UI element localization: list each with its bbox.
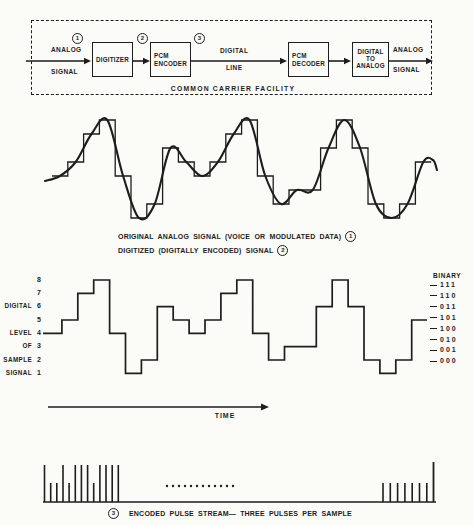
level-number: 6 — [36, 302, 42, 309]
input-label-analog: ANALOG — [51, 46, 82, 53]
binary-value: 110 — [440, 292, 457, 300]
binary-tick-dash — [430, 350, 437, 351]
level-row: 7 — [0, 289, 42, 296]
level-number: 8 — [36, 276, 42, 283]
digital-staircase — [43, 280, 427, 373]
level-number: 4 — [36, 329, 42, 336]
time-axis-arrow — [48, 403, 269, 410]
digital-line-label-bottom: LINE — [226, 64, 242, 71]
level-number: 7 — [36, 289, 42, 296]
level-row: LEVEL4 — [0, 329, 42, 336]
marker-3-icon: 3 — [194, 33, 205, 44]
analog-waveform — [45, 118, 437, 219]
marker-2-icon: 2 — [137, 33, 148, 44]
time-axis-label: TIME — [205, 412, 245, 419]
da-label-line3: ANALOG — [356, 63, 385, 70]
level-word: LEVEL — [10, 329, 32, 336]
binary-row: 011 — [430, 303, 457, 311]
level-number: 2 — [36, 356, 42, 363]
level-row: 5 — [0, 316, 42, 323]
marker-2-icon: 2 — [277, 245, 288, 256]
binary-value: 000 — [440, 357, 458, 365]
binary-row: 001 — [430, 346, 458, 354]
binary-value: 100 — [440, 325, 458, 333]
digitized-caption: DIGITIZED (DIGITALLY ENCODED) SIGNAL 2 — [118, 245, 288, 256]
binary-row: 100 — [430, 325, 458, 333]
digitized-caption-text: DIGITIZED (DIGITALLY ENCODED) SIGNAL — [118, 247, 273, 254]
digitizer-label: DIGITIZER — [96, 56, 129, 64]
output-label-analog: ANALOG — [393, 46, 424, 53]
binary-value: 001 — [440, 346, 458, 354]
level-word: SIGNAL — [6, 369, 32, 376]
binary-tick-dash — [430, 295, 437, 296]
binary-tick-dash — [430, 285, 437, 286]
digital-line-label-top: DIGITAL — [220, 47, 248, 54]
binary-row: 000 — [430, 357, 458, 365]
pcm-decoder-label-line1: PCM — [292, 52, 307, 60]
binary-tick-dash — [430, 328, 437, 329]
level-row: SAMPLE2 — [0, 356, 42, 363]
marker-1-icon: 1 — [72, 33, 83, 44]
binary-tick-dash — [430, 306, 437, 307]
pcm-encoder-label-line1: PCM — [154, 52, 169, 60]
input-label-signal: SIGNAL — [51, 68, 78, 75]
level-word: OF — [22, 342, 32, 349]
marker-1-icon: 1 — [345, 231, 356, 242]
level-word: SAMPLE — [3, 356, 32, 363]
marker-3-icon: 3 — [108, 508, 119, 519]
level-row: OF3 — [0, 342, 42, 349]
pcm-encoder-label-line2: ENCODER — [154, 60, 187, 68]
level-number: 5 — [36, 316, 42, 323]
digital-to-analog-box: DIGITAL TO ANALOG — [352, 42, 389, 77]
binary-tick-dash — [430, 317, 437, 318]
pcm-figure: ANALOG SIGNAL 1 2 3 DIGITIZER PCM ENCODE… — [0, 0, 473, 525]
pulse-caption-text: ENCODED PULSE STREAM— THREE PULSES PER S… — [129, 510, 352, 517]
binary-value: 111 — [440, 281, 457, 289]
binary-value: 011 — [440, 303, 457, 311]
binary-tick-dash — [430, 361, 437, 362]
binary-tick-dash — [430, 339, 437, 340]
binary-row: 110 — [430, 292, 457, 300]
pcm-encoder-box: PCM ENCODER — [150, 42, 191, 77]
binary-row: 101 — [430, 314, 458, 322]
pcm-decoder-label-line2: DECODER — [292, 60, 325, 68]
pulse-caption: 3 ENCODED PULSE STREAM— THREE PULSES PER… — [108, 508, 352, 519]
analog-caption: ORIGINAL ANALOG SIGNAL (VOICE OR MODULAT… — [118, 231, 356, 242]
level-number: 3 — [36, 342, 42, 349]
binary-row: 010 — [430, 336, 458, 344]
binary-row: 111 — [430, 281, 457, 289]
binary-value: 101 — [440, 314, 458, 322]
facility-label: COMMON CARRIER FACILITY — [158, 85, 308, 92]
level-word: DIGITAL — [4, 302, 32, 309]
digitizer-box: DIGITIZER — [92, 42, 133, 77]
analog-caption-text: ORIGINAL ANALOG SIGNAL (VOICE OR MODULAT… — [118, 233, 341, 240]
output-label-signal: SIGNAL — [393, 66, 420, 73]
level-row: SIGNAL1 — [0, 369, 42, 376]
level-row: 8 — [0, 276, 42, 283]
pulse-stream — [43, 462, 436, 502]
level-number: 1 — [36, 369, 42, 376]
pcm-decoder-box: PCM DECODER — [288, 42, 329, 77]
level-row: DIGITAL6 — [0, 302, 42, 309]
binary-header: BINARY — [433, 272, 461, 279]
binary-value: 010 — [440, 336, 458, 344]
